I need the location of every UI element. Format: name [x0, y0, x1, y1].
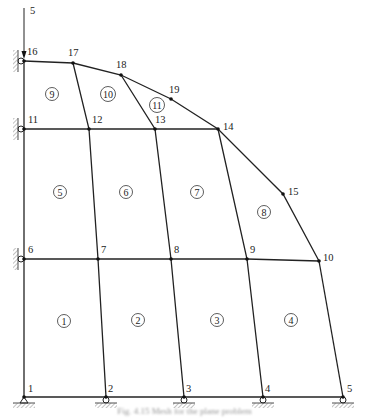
- figure-caption: Fig. 4.15 Mesh for the plane problem: [0, 406, 369, 416]
- element-label: 4: [285, 314, 298, 327]
- node-dot: [87, 127, 91, 131]
- node-label: 19: [169, 84, 180, 95]
- node-dot: [169, 257, 173, 261]
- node-label: 7: [101, 244, 106, 255]
- node-label: 14: [223, 121, 234, 132]
- svg-text:6: 6: [124, 187, 129, 198]
- node-label: 13: [155, 114, 166, 125]
- element-label: 10: [101, 87, 116, 102]
- svg-text:11: 11: [152, 100, 162, 111]
- node-dot: [245, 257, 249, 261]
- element-label: 3: [211, 314, 224, 327]
- svg-text:10: 10: [103, 89, 113, 100]
- node-labels: 12345678910111213141516171819: [27, 46, 352, 394]
- node-dot: [281, 192, 285, 196]
- element-label: 7: [191, 186, 204, 199]
- svg-text:2: 2: [136, 315, 141, 326]
- element-label: 11: [150, 98, 165, 113]
- node-label: 16: [27, 46, 38, 57]
- element-label: 2: [132, 314, 145, 327]
- node-dot: [261, 395, 265, 399]
- svg-text:4: 4: [289, 315, 294, 326]
- node-dot: [169, 97, 173, 101]
- node-label: 8: [174, 244, 179, 255]
- node-dot: [96, 257, 100, 261]
- node-label: 4: [265, 383, 271, 394]
- mesh-lines: [24, 61, 343, 397]
- node-dot: [71, 61, 75, 65]
- element-label: 1: [58, 315, 71, 328]
- svg-text:3: 3: [215, 315, 220, 326]
- node-dot: [22, 395, 26, 399]
- node-label: 3: [186, 383, 191, 394]
- node-dot: [216, 127, 220, 131]
- node-dot: [317, 259, 321, 263]
- node-dot: [22, 257, 26, 261]
- node-dot: [341, 395, 345, 399]
- node-label: 18: [116, 59, 127, 70]
- element-label: 5: [54, 186, 67, 199]
- node-label: 6: [28, 244, 33, 255]
- svg-text:8: 8: [262, 207, 267, 218]
- svg-text:7: 7: [195, 187, 200, 198]
- node-label: 10: [323, 252, 334, 263]
- node-dot: [153, 127, 157, 131]
- supports: [13, 50, 354, 408]
- node-dot: [22, 127, 26, 131]
- mesh-edge: [218, 129, 263, 397]
- svg-text:5: 5: [58, 187, 63, 198]
- node-dot: [104, 395, 108, 399]
- node-label: 1: [28, 383, 33, 394]
- node-label: 15: [288, 186, 299, 197]
- node-label: 2: [108, 383, 113, 394]
- element-label: 6: [120, 186, 133, 199]
- node-dot: [22, 59, 26, 63]
- mesh-edge: [319, 261, 343, 397]
- node-dot: [119, 73, 123, 77]
- svg-text:1: 1: [62, 316, 67, 327]
- element-labels: 1234567891011: [46, 87, 298, 328]
- node-dot: [182, 395, 186, 399]
- svg-text:5: 5: [30, 5, 35, 16]
- mesh-edge: [121, 75, 184, 397]
- fe-mesh-diagram: 5 12345678910111213141516171819 12345678…: [0, 0, 369, 419]
- element-label: 8: [258, 206, 271, 219]
- element-label: 9: [46, 88, 59, 101]
- node-label: 9: [250, 244, 255, 255]
- node-label: 5: [347, 383, 352, 394]
- node-label: 17: [68, 47, 79, 58]
- node-label: 12: [92, 114, 103, 125]
- svg-text:9: 9: [50, 89, 55, 100]
- node-dots: [22, 59, 345, 399]
- node-label: 11: [28, 114, 38, 125]
